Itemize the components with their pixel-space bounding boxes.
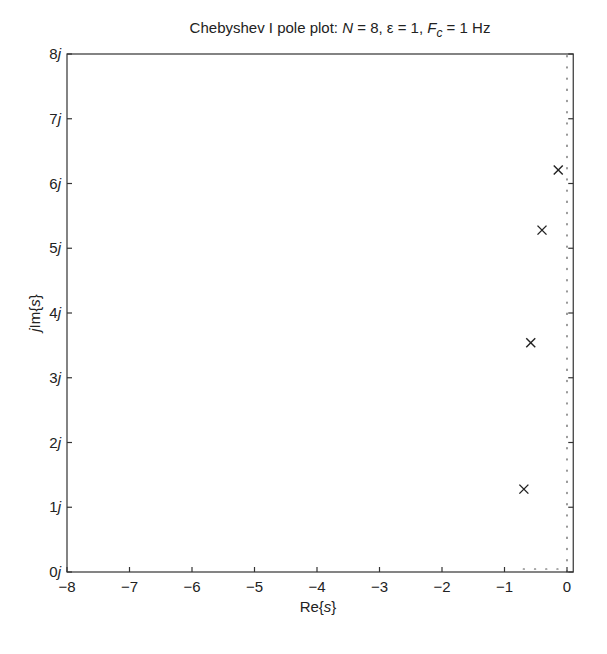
- y-axis-label: jIm{s}: [26, 294, 43, 334]
- plot-area: −8−7−6−5−4−3−2−100j1j2j3j4j5j6j7j8j: [49, 45, 573, 595]
- title-n-label: N: [342, 19, 353, 36]
- y-axis-label-close: }: [26, 294, 43, 299]
- pole-marker-x-icon: [554, 165, 563, 174]
- x-tick-label: −8: [58, 578, 75, 595]
- x-axis-label-re: Re{: [300, 598, 324, 615]
- x-tick-label: −5: [246, 578, 263, 595]
- title-prefix: Chebyshev I pole plot:: [190, 19, 343, 36]
- x-tick-label: 0: [563, 578, 571, 595]
- x-tick-label: −7: [121, 578, 138, 595]
- chart-title: Chebyshev I pole plot: N = 8, ε = 1, Fc …: [190, 19, 491, 40]
- pole-marker-x-icon: [519, 485, 528, 494]
- x-tick-label: −1: [496, 578, 513, 595]
- y-axis-label-im: Im{: [26, 307, 43, 329]
- y-tick-label: 7j: [49, 110, 61, 127]
- pole-marker-x-icon: [538, 226, 547, 235]
- x-tick-label: −4: [308, 578, 325, 595]
- y-tick-label: 5j: [49, 239, 61, 256]
- title-n-value: = 8, ε = 1,: [353, 19, 427, 36]
- y-tick-label: 6j: [49, 175, 61, 192]
- title-fc-value: = 1 Hz: [442, 19, 490, 36]
- y-tick-label: 3j: [49, 369, 61, 386]
- y-tick-label: 8j: [49, 45, 61, 62]
- x-axis-label: Re{s}: [300, 598, 337, 615]
- x-axis-label-close: }: [331, 598, 336, 615]
- y-tick-label: 4j: [49, 304, 61, 321]
- axes-frame: [67, 54, 573, 572]
- pole-marker-x-icon: [526, 338, 535, 347]
- x-tick-label: −2: [433, 578, 450, 595]
- y-tick-label: 0j: [49, 563, 61, 580]
- y-tick-label: 2j: [49, 434, 61, 451]
- x-tick-label: −3: [371, 578, 388, 595]
- pole-plot-chart: Chebyshev I pole plot: N = 8, ε = 1, Fc …: [0, 0, 607, 654]
- x-tick-label: −6: [183, 578, 200, 595]
- y-tick-label: 1j: [49, 498, 61, 515]
